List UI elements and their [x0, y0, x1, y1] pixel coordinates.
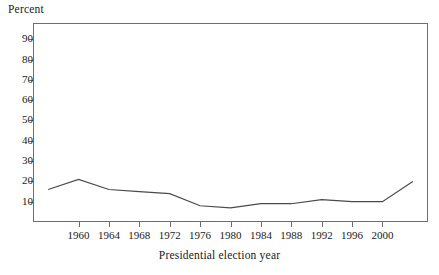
chart-figure: Percent 102030405060708090 1960196419681…	[0, 0, 439, 275]
x-tick-mark	[261, 222, 262, 227]
x-tick-mark	[322, 222, 323, 227]
x-tick-mark	[352, 222, 353, 227]
x-axis-title: Presidential election year	[0, 248, 439, 262]
x-axis: 1960196419681972197619801984198819921996…	[0, 0, 439, 275]
x-tick-label: 2000	[362, 229, 402, 241]
x-tick-mark	[109, 222, 110, 227]
x-tick-mark	[291, 222, 292, 227]
x-tick-mark	[382, 222, 383, 227]
x-tick-mark	[170, 222, 171, 227]
x-tick-mark	[231, 222, 232, 227]
x-tick-mark	[139, 222, 140, 227]
x-tick-mark	[79, 222, 80, 227]
x-tick-mark	[200, 222, 201, 227]
